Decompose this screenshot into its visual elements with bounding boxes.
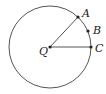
circle-diagram: A B C Q <box>0 0 106 94</box>
point-q <box>48 45 51 48</box>
label-b: B <box>92 24 101 37</box>
label-c: C <box>95 42 104 55</box>
point-c <box>89 45 92 48</box>
label-a: A <box>81 7 90 20</box>
segment-qa <box>50 17 78 47</box>
point-b <box>86 29 89 32</box>
label-q: Q <box>39 45 48 58</box>
point-a <box>76 15 79 18</box>
